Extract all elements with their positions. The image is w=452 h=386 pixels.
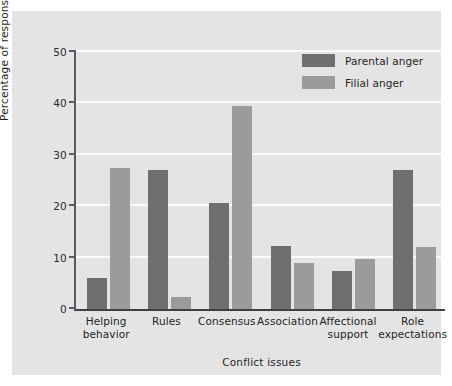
bar <box>294 263 314 309</box>
x-axis-title: Conflict issues <box>76 356 447 368</box>
x-axis-label: Rules <box>136 315 196 340</box>
bar <box>209 203 229 309</box>
x-axis-label: Roleexpectations <box>378 315 447 340</box>
bar <box>148 170 168 309</box>
y-axis-tick-label: 20 <box>53 200 67 212</box>
y-axis-tick <box>69 204 76 206</box>
x-axis-label-line: behavior <box>76 328 136 341</box>
x-axis-label: Affectionalsupport <box>318 315 378 340</box>
legend-item: Filial anger <box>302 76 423 89</box>
bar <box>416 247 436 309</box>
x-axis-label-line: Rules <box>136 315 196 328</box>
bar <box>87 278 107 309</box>
y-axis-tick <box>69 256 76 258</box>
bar <box>332 271 352 309</box>
x-axis-label-line: Role <box>378 315 447 328</box>
legend-item: Parental anger <box>302 54 423 67</box>
legend-swatch <box>302 76 335 89</box>
bar-group <box>139 52 200 309</box>
bar <box>355 259 375 309</box>
x-axis-label-line: Affectional <box>318 315 378 328</box>
y-axis-tick <box>69 153 76 155</box>
x-axis-label: Helpingbehavior <box>76 315 136 340</box>
bar <box>171 297 191 309</box>
chart-legend: Parental angerFilial anger <box>302 54 423 98</box>
bar <box>393 170 413 309</box>
bar <box>271 246 291 309</box>
figure-container: 01020304050 Percentage of responses Help… <box>0 0 452 386</box>
x-axis-label: Consensus <box>197 315 257 340</box>
x-axis-labels: HelpingbehaviorRulesConsensusAssociation… <box>76 315 447 340</box>
legend-label: Filial anger <box>345 77 403 89</box>
x-axis-label-line: Consensus <box>197 315 257 328</box>
y-axis-tick <box>69 50 76 52</box>
y-axis-tick-label: 0 <box>60 303 67 315</box>
y-axis-tick <box>69 101 76 103</box>
x-axis-label-line: Association <box>257 315 318 328</box>
y-axis-title: Percentage of responses <box>0 0 10 121</box>
bar-group <box>200 52 261 309</box>
bar-group <box>78 52 139 309</box>
y-axis-tick-label: 10 <box>53 252 67 264</box>
bar <box>110 168 130 309</box>
y-axis-tick <box>69 307 76 309</box>
chart-panel: 01020304050 Percentage of responses Help… <box>12 11 441 375</box>
legend-label: Parental anger <box>345 55 423 67</box>
x-axis-label-line: Helping <box>76 315 136 328</box>
bar <box>232 106 252 309</box>
y-axis-tick-label: 30 <box>53 149 67 161</box>
x-axis-label-line: support <box>318 328 378 341</box>
legend-swatch <box>302 54 335 67</box>
x-axis-label-line: expectations <box>378 328 447 341</box>
y-axis-tick-label: 40 <box>53 97 67 109</box>
x-axis-label: Association <box>257 315 318 340</box>
y-axis-tick-label: 50 <box>53 46 67 58</box>
